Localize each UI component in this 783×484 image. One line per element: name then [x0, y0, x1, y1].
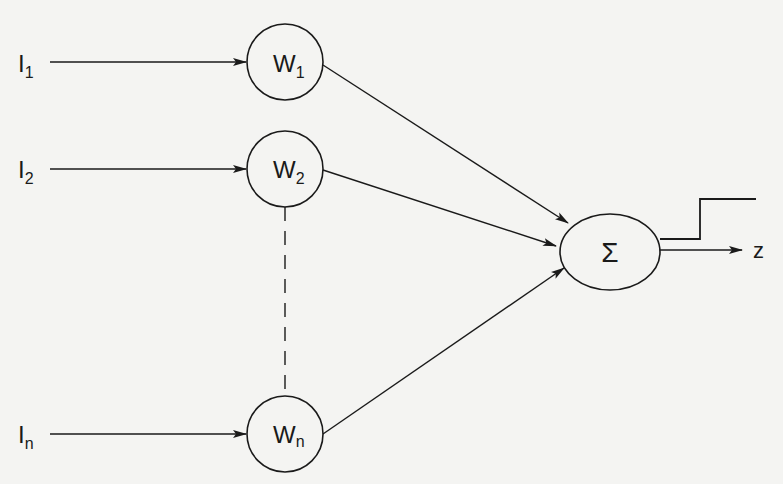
weight-label-1: W1 [273, 50, 305, 81]
connection-w2-sum [323, 170, 556, 246]
sigma-symbol: Σ [601, 237, 618, 268]
input-label-n: In [18, 421, 34, 452]
step-function-icon [660, 199, 756, 239]
input-label-1: I1 [18, 50, 34, 81]
output-label: z [753, 238, 764, 263]
weight-label-n: Wn [273, 421, 305, 450]
connection-w1-sum [323, 65, 568, 223]
perceptron-diagram: I1 I2 In W1 W2 Wn Σ z [0, 0, 783, 484]
input-label-2: I2 [18, 156, 34, 187]
connection-wn-sum [323, 268, 564, 434]
weight-label-2: W2 [273, 156, 305, 187]
